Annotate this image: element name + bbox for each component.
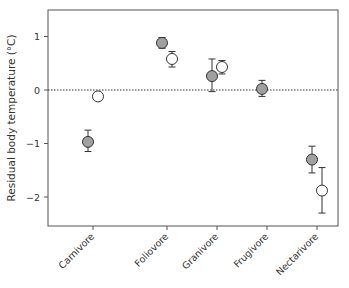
- data-point-grey: [207, 71, 218, 82]
- data-point-grey: [257, 83, 268, 94]
- data-point-grey: [157, 37, 168, 48]
- data-point-white: [93, 91, 104, 102]
- data-point-grey: [307, 154, 318, 165]
- data-point-white: [167, 53, 178, 64]
- y-tick-label: −1: [26, 138, 40, 149]
- y-axis-title: Residual body temperature (°C): [5, 34, 17, 201]
- x-tick-label-foliovore: Foliovore: [132, 231, 170, 269]
- x-tick-label-frugivore: Frugivore: [231, 231, 270, 270]
- y-tick-label: −2: [26, 192, 40, 203]
- data-point-white: [217, 61, 228, 72]
- x-tick-label-carnivore: Carnivore: [56, 231, 96, 271]
- x-tick-label-nectarivore: Nectarivore: [274, 231, 321, 278]
- data-point-grey: [83, 136, 94, 147]
- plot-frame: [48, 10, 338, 226]
- x-tick-label-granivore: Granivore: [180, 231, 221, 272]
- data-point-white: [317, 185, 328, 196]
- chart: 10−1−2Residual body temperature (°C)Carn…: [0, 0, 349, 288]
- y-tick-label: 0: [34, 85, 40, 96]
- y-tick-label: 1: [34, 31, 40, 42]
- plot-area: 10−1−2Residual body temperature (°C)Carn…: [5, 10, 338, 277]
